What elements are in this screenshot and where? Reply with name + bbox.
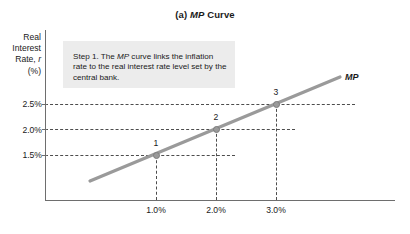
data-point-1 [153, 152, 160, 159]
data-point-label-3: 3 [266, 87, 286, 97]
figure-panel-mp-curve: (a) MP Curve Real Interest Rate, r (%) 2… [0, 0, 410, 234]
annotation-callout-text: Step 1. The MP curve links the inflation… [73, 52, 229, 83]
data-point-2 [213, 126, 220, 133]
mp-curve-line [0, 0, 410, 234]
mp-curve-label: MP [345, 72, 359, 82]
data-point-3 [273, 101, 280, 108]
annotation-callout-step-1: Step 1. The MP curve links the inflation… [63, 41, 235, 88]
data-point-label-2: 2 [206, 112, 226, 122]
annotation-italic-term: MP [117, 52, 129, 61]
data-point-label-1: 1 [146, 138, 166, 148]
